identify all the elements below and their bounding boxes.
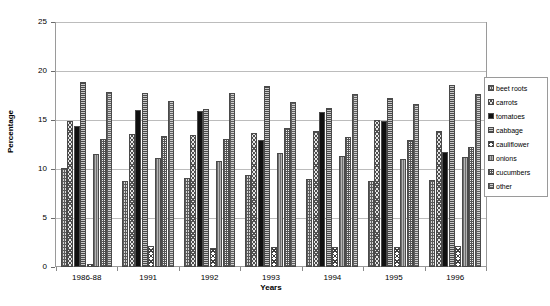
- legend-label: onions: [496, 155, 517, 162]
- legend-swatch-icon: [488, 183, 494, 189]
- bar: [475, 94, 481, 267]
- bar: [352, 94, 358, 267]
- y-tick-label-10: 10: [38, 165, 47, 173]
- bar: [184, 178, 190, 267]
- bar: [374, 120, 380, 267]
- bar: [190, 135, 196, 267]
- x-axis-title: Years: [56, 283, 486, 292]
- bar: [345, 137, 351, 267]
- bar: [148, 246, 154, 267]
- legend-item[interactable]: cauliflower: [488, 137, 545, 151]
- legend-swatch-icon: [488, 155, 494, 161]
- bar-group: [302, 23, 363, 267]
- y-tick-label-25: 25: [38, 18, 47, 26]
- bar-group: [240, 23, 301, 267]
- bar: [277, 153, 283, 267]
- x-tick-mark: [240, 267, 241, 271]
- legend-label: carrots: [496, 99, 517, 106]
- bar: [449, 85, 455, 267]
- legend-label: other: [496, 183, 512, 190]
- bar: [67, 121, 73, 267]
- bar: [462, 157, 468, 267]
- bar: [436, 131, 442, 267]
- bar: [413, 104, 419, 267]
- legend-swatch-icon: [488, 113, 494, 119]
- bar: [74, 126, 80, 267]
- y-tick-label-15: 15: [38, 116, 47, 124]
- bar: [203, 109, 209, 267]
- legend-item[interactable]: beet roots: [488, 81, 545, 95]
- bar-groups: [56, 23, 486, 267]
- legend-item[interactable]: other: [488, 179, 545, 193]
- bar: [326, 108, 332, 267]
- bar-group: [56, 23, 117, 267]
- y-axis-title: Percentage: [6, 92, 15, 172]
- legend-swatch-icon: [488, 85, 494, 91]
- bar: [87, 264, 93, 267]
- legend-item[interactable]: cucumbers: [488, 165, 545, 179]
- legend-label: tomatoes: [496, 113, 525, 120]
- bar: [332, 247, 338, 267]
- y-tick-label-20: 20: [38, 67, 47, 75]
- x-tick-mark: [486, 267, 487, 271]
- bar: [80, 82, 86, 267]
- bar: [197, 111, 203, 267]
- bar-group: [179, 23, 240, 267]
- bar: [161, 136, 167, 267]
- bar: [313, 131, 319, 267]
- legend-swatch-icon: [488, 127, 494, 133]
- y-tick-mark-10: [51, 169, 55, 170]
- y-tick-mark-5: [51, 218, 55, 219]
- bar: [135, 110, 141, 267]
- bar: [306, 179, 312, 267]
- bar-group: [363, 23, 424, 267]
- legend: beet rootscarrotstomatoescabbagecauliflo…: [484, 77, 548, 197]
- y-tick-mark-20: [51, 71, 55, 72]
- legend-label: cucumbers: [496, 169, 530, 176]
- bar: [100, 139, 106, 267]
- bar: [122, 181, 128, 267]
- bar: [216, 161, 222, 267]
- bar: [319, 112, 325, 267]
- bar: [264, 86, 270, 267]
- legend-label: beet roots: [496, 85, 527, 92]
- bar: [142, 93, 148, 267]
- bar: [339, 156, 345, 267]
- legend-label: cabbage: [496, 127, 523, 134]
- bar-group: [425, 23, 486, 267]
- bar: [106, 92, 112, 267]
- y-axis: 0510152025 Percentage: [0, 22, 55, 267]
- y-tick-mark-0: [51, 267, 55, 268]
- legend-item[interactable]: tomatoes: [488, 109, 545, 123]
- bar: [258, 140, 264, 267]
- bar: [210, 248, 216, 267]
- bar: [368, 181, 374, 267]
- bar: [387, 98, 393, 267]
- bar: [129, 134, 135, 267]
- y-tick-mark-25: [51, 22, 55, 23]
- bar: [455, 246, 461, 267]
- bar: [93, 154, 99, 267]
- bar: [155, 158, 161, 267]
- bar: [284, 128, 290, 267]
- bar: [468, 147, 474, 267]
- x-tick-mark: [302, 267, 303, 271]
- legend-item[interactable]: onions: [488, 151, 545, 165]
- legend-swatch-icon: [488, 141, 494, 147]
- legend-item[interactable]: carrots: [488, 95, 545, 109]
- bar: [394, 247, 400, 267]
- bar: [251, 133, 257, 267]
- y-tick-label-0: 0: [43, 263, 47, 271]
- legend-item[interactable]: cabbage: [488, 123, 545, 137]
- bar-chart: 0510152025 Percentage 1986-8819911992199…: [0, 0, 550, 306]
- x-tick-mark: [363, 267, 364, 271]
- bar: [223, 139, 229, 267]
- bar: [168, 101, 174, 267]
- x-tick-mark: [425, 267, 426, 271]
- bar-group: [117, 23, 178, 267]
- bar: [290, 102, 296, 267]
- legend-swatch-icon: [488, 99, 494, 105]
- legend-label: cauliflower: [496, 141, 529, 148]
- x-tick-mark: [179, 267, 180, 271]
- x-tick-mark: [117, 267, 118, 271]
